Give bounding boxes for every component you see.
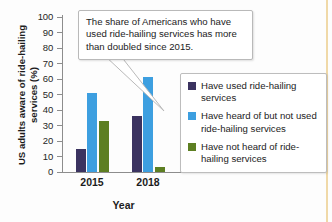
chart-figure: 0102030405060708090100 20152018 Year US … (0, 0, 332, 222)
callout-annotation: The share of Americans who have used rid… (78, 10, 253, 60)
x-axis-title: Year (62, 199, 185, 211)
bar-2018-series-2 (155, 167, 165, 172)
bar-2015-series-1 (87, 93, 97, 172)
legend-item-label: Have heard of but not used ride-hailing … (201, 110, 320, 134)
bar-2018-series-0 (132, 116, 142, 172)
legend-swatch-icon (188, 112, 196, 120)
legend-item[interactable]: Have heard of but not used ride-hailing … (188, 110, 320, 134)
legend-swatch-icon (188, 143, 196, 151)
legend-swatch-icon (188, 82, 196, 90)
legend-item[interactable]: Have used ride-hailing services (188, 80, 320, 104)
legend-item[interactable]: Have not heard of ride-hailing services (188, 141, 320, 165)
x-axis-line (62, 172, 185, 173)
chart-legend: Have used ride-hailing servicesHave hear… (180, 73, 327, 173)
bar-2015-series-0 (76, 149, 86, 172)
y-axis-title: US adults aware of ride-hailing services… (16, 20, 40, 170)
legend-item-label: Have used ride-hailing services (201, 80, 320, 104)
x-axis-label-2015: 2015 (71, 177, 113, 188)
bar-2018-series-1 (143, 77, 153, 172)
bar-2015-series-2 (99, 121, 109, 172)
legend-item-label: Have not heard of ride-hailing services (201, 141, 320, 165)
x-axis-label-2018: 2018 (127, 177, 169, 188)
